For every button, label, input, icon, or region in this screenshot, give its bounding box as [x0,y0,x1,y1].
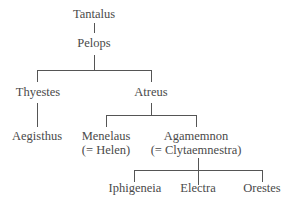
connector-atreus-children-bar [106,115,197,116]
node-thyestes: Thyestes [16,85,60,99]
node-tantalus: Tantalus [73,7,115,21]
node-name: Menelaus [82,129,131,143]
node-pelops: Pelops [77,36,110,50]
connector-to-thyestes [37,70,38,82]
node-menelaus: Menelaus (= Helen) [82,129,131,157]
connector-pelops-down [94,55,95,70]
node-name: Aegisthus [12,129,62,143]
node-aegisthus: Aegisthus [12,129,62,143]
connector-to-menelaus [106,115,107,127]
node-name: Iphigeneia [109,181,162,195]
node-name: Electra [180,181,215,195]
connector-atreus-down [151,103,152,115]
node-agamemnon: Agamemnon (= Clytaemnestra) [151,129,242,157]
connector-to-atreus [151,70,152,82]
family-tree-diagram: Tantalus Pelops Thyestes Aegisthus Atreu… [0,0,292,205]
node-name: Atreus [134,85,167,99]
connector-pelops-children-bar [37,70,152,71]
node-name: Agamemnon [151,129,242,143]
node-name: Orestes [243,181,281,195]
node-name: Tantalus [73,7,115,21]
connector-tantalus-pelops [94,23,95,33]
node-spouse: (= Clytaemnestra) [151,143,242,157]
node-electra: Electra [180,181,215,195]
node-iphigeneia: Iphigeneia [109,181,162,195]
node-orestes: Orestes [243,181,281,195]
node-name: Thyestes [16,85,60,99]
node-spouse: (= Helen) [82,143,131,157]
connector-agamemnon-children-bar [134,170,263,171]
node-name: Pelops [77,36,110,50]
node-atreus: Atreus [134,85,167,99]
connector-to-agamemnon [196,115,197,127]
connector-thyestes-aegisthus [37,103,38,127]
